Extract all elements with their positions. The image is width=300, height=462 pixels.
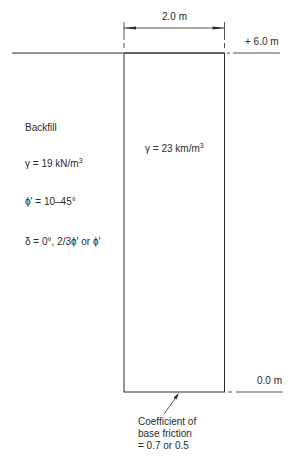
backfill-unit-weight-text: γ = 19 kN/m bbox=[25, 158, 79, 169]
base-friction-line3: = 0.7 or 0.5 bbox=[138, 440, 196, 452]
base-friction-line2: base friction bbox=[138, 428, 196, 440]
backfill-wall-friction: δ = 0°, 2/3ϕ' or ϕ' bbox=[25, 236, 100, 248]
retaining-wall-drawing bbox=[0, 0, 300, 462]
width-dimension-label: 2.0 m bbox=[162, 11, 187, 23]
base-friction-note: Coefficient of base friction = 0.7 or 0.… bbox=[138, 416, 196, 452]
wall-unit-weight-exp: 3 bbox=[200, 142, 204, 149]
bottom-level-label: 0.0 m bbox=[257, 375, 282, 387]
wall-body bbox=[124, 53, 225, 392]
backfill-unit-weight: γ = 19 kN/m3 bbox=[25, 158, 83, 170]
backfill-unit-weight-exp: 3 bbox=[79, 157, 83, 164]
base-leader-line bbox=[164, 396, 177, 414]
base-leader-arrow-icon bbox=[174, 393, 180, 400]
backfill-title: Backfill bbox=[25, 122, 57, 134]
top-level-label: + 6.0 m bbox=[245, 36, 279, 48]
wall-unit-weight: γ = 23 km/m3 bbox=[145, 143, 204, 155]
backfill-friction-angle: ϕ' = 10–45° bbox=[25, 196, 76, 208]
arrow-right-icon bbox=[213, 27, 225, 30]
arrow-left-icon bbox=[124, 27, 136, 30]
base-friction-line1: Coefficient of bbox=[138, 416, 196, 428]
wall-unit-weight-text: γ = 23 km/m bbox=[145, 143, 200, 154]
